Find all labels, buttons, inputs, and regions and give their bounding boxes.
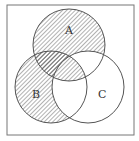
label-a: A — [64, 24, 74, 37]
label-c: C — [98, 88, 106, 101]
venn-diagram: A B C — [0, 0, 139, 141]
label-b: B — [32, 88, 40, 101]
